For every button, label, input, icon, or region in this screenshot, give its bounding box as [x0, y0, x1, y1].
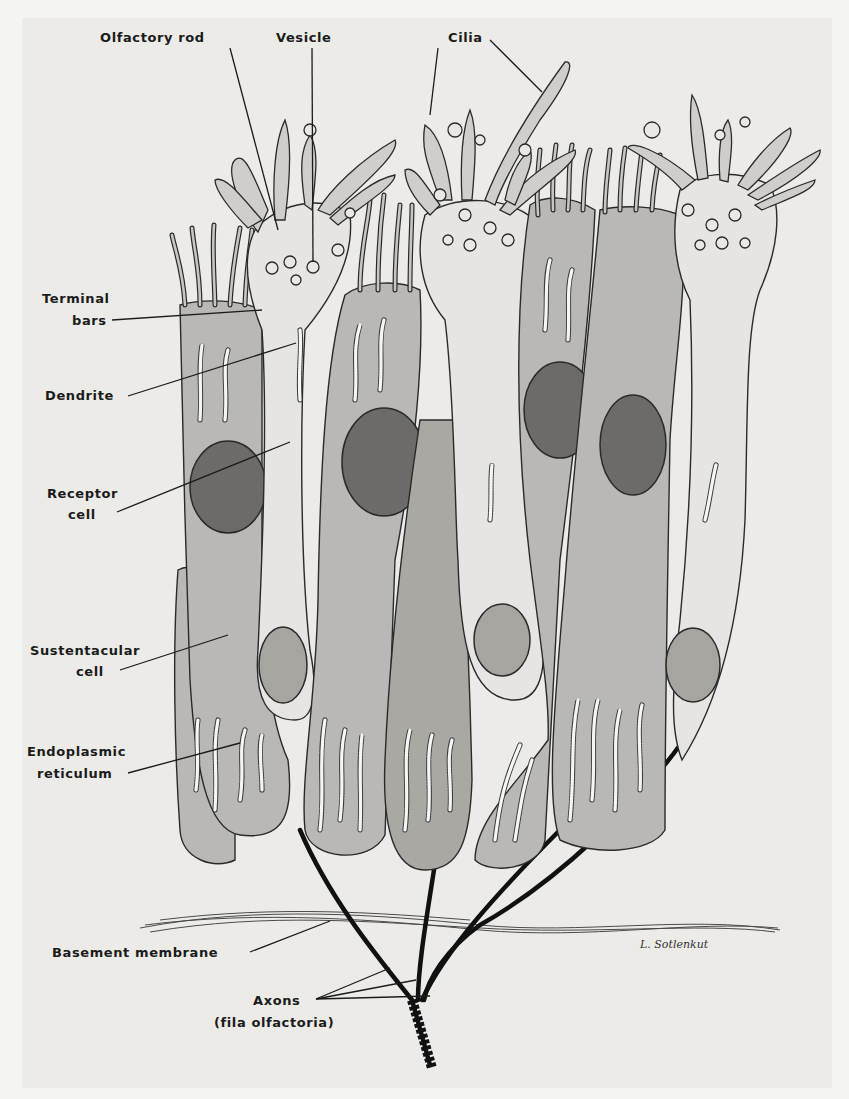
label-cilia-text: Cilia: [448, 30, 483, 45]
label-olfactory-rod-text: Olfactory rod: [100, 30, 205, 45]
label-vesicle-text: Vesicle: [276, 30, 332, 45]
label-receptor-cell-text-2: cell: [68, 507, 96, 522]
label-endoplasmic-reticulum-text-2: reticulum: [37, 766, 113, 781]
nucleus-sustentacular-1: [190, 441, 266, 533]
label-axons-text-1: Axons: [253, 993, 300, 1008]
artist-signature: L. Sotlenkut: [639, 938, 709, 951]
nucleus-receptor-2: [474, 604, 530, 676]
nucleus-receptor-1: [259, 627, 307, 703]
label-sustentacular-cell-text-1: Sustentacular: [30, 643, 140, 658]
nucleus-receptor-3: [666, 628, 720, 702]
nucleus-sustentacular-5: [600, 395, 666, 495]
label-endoplasmic-reticulum-text-1: Endoplasmic: [27, 744, 126, 759]
label-basement-membrane-text: Basement membrane: [52, 945, 218, 960]
label-terminal-bars-text-2: bars: [72, 313, 107, 328]
label-receptor-cell-text-1: Receptor: [47, 486, 118, 501]
olfactory-epithelium-diagram: Olfactory rod Vesicle Cilia Terminal bar…: [0, 0, 849, 1099]
label-terminal-bars-text-1: Terminal: [42, 291, 110, 306]
label-dendrite-text: Dendrite: [45, 388, 114, 403]
label-sustentacular-cell-text-2: cell: [76, 664, 104, 679]
label-axons-text-2: (fila olfactoria): [214, 1015, 334, 1030]
